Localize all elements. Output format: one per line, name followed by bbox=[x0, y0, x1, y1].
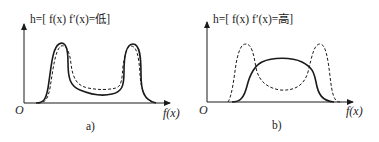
panel-a bbox=[24, 24, 170, 103]
solid-curve-b bbox=[232, 58, 334, 102]
solid-curve-a bbox=[36, 43, 156, 103]
panel-b-title: h=[ f(x) f′(x)=高] bbox=[213, 14, 293, 26]
panel-a-title: h=[ f(x) f′(x)=低] bbox=[30, 14, 110, 26]
panel-b bbox=[207, 22, 353, 102]
panel-a-origin-label: O bbox=[15, 104, 24, 116]
panel-b-caption: b) bbox=[272, 120, 282, 132]
panel-b-x-axis-label: f(x) bbox=[346, 105, 363, 117]
panel-a-caption: a) bbox=[86, 121, 95, 133]
panel-b-origin-label: O bbox=[199, 104, 208, 116]
panel-a-x-axis-label: f(x) bbox=[163, 107, 180, 119]
